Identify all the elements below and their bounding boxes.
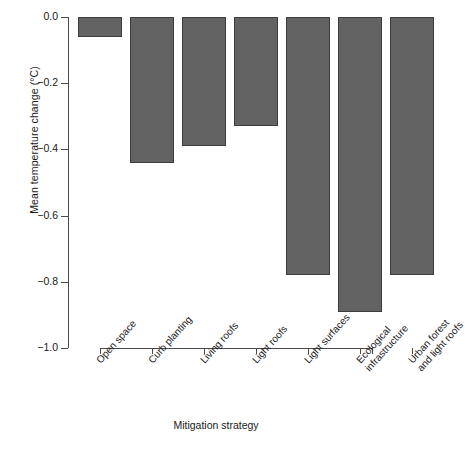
y-tick-label: −1.0 [18,342,58,353]
y-tick [61,216,68,217]
y-tick [61,83,68,84]
y-tick [61,282,68,283]
y-tick-label: −0.2 [18,77,58,88]
y-tick-label: 0.0 [18,11,58,22]
x-axis-title: Mitigation strategy [0,419,432,431]
bar [130,17,174,163]
y-tick [61,348,68,349]
y-tick-label: −0.6 [18,210,58,221]
y-tick [61,149,68,150]
bar [78,17,122,37]
x-axis-line [100,348,372,349]
y-tick [61,17,68,18]
y-tick-label: −0.8 [18,276,58,287]
y-tick-label: −0.4 [18,143,58,154]
bar [338,17,382,312]
bar [182,17,226,146]
bar [234,17,278,126]
bar [390,17,434,275]
plot-area [69,17,425,348]
bar [286,17,330,275]
